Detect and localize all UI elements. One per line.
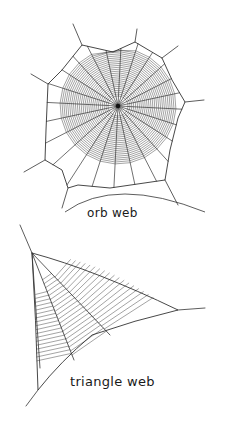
triangle-web-label: triangle web bbox=[70, 374, 155, 389]
orb-web-label: orb web bbox=[87, 206, 138, 220]
orb-web-drawing bbox=[24, 24, 205, 212]
web-illustration: orb web triangle web bbox=[0, 0, 227, 422]
